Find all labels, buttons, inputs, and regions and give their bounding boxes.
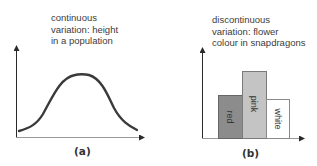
panel-label-a: (a) [74,145,91,157]
bar-red: red [219,96,243,139]
panel-label-b: (b) [242,147,259,159]
bar-label-pink: pink [249,96,259,113]
bar-pink: pink [243,72,267,139]
bar-white: white [267,100,290,139]
bar-label-red: red [225,110,235,123]
bell-curve-line [19,74,137,131]
bar-label-white: white [273,107,283,129]
diagram-canvas: red pink white [0,0,317,166]
